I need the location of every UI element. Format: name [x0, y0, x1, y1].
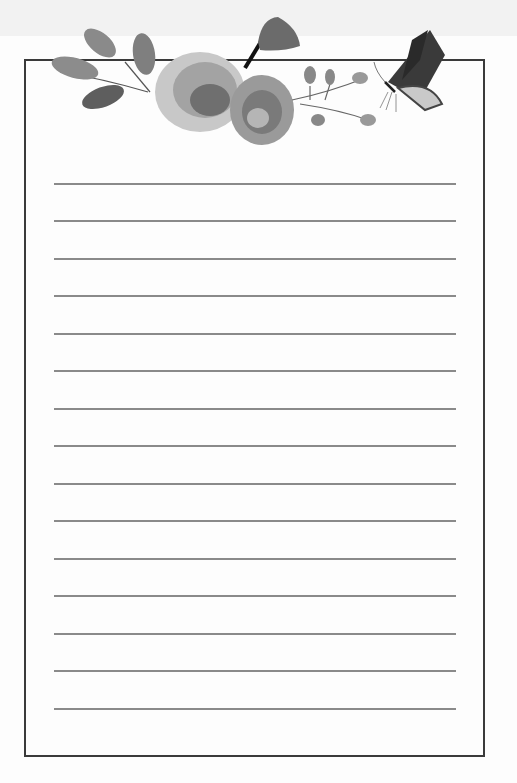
floral-decoration: [0, 0, 517, 160]
ruled-line: [54, 670, 456, 672]
ruled-line: [54, 483, 456, 485]
leaf-sprig-icon: [49, 23, 158, 114]
bell-flower-icon: [245, 17, 300, 68]
ruled-line: [54, 520, 456, 522]
ruled-line: [54, 258, 456, 260]
ruled-line: [54, 220, 456, 222]
rose-icon: [155, 52, 294, 145]
ruled-line: [54, 595, 456, 597]
ruled-line: [54, 408, 456, 410]
ruled-line: [54, 333, 456, 335]
ruled-line: [54, 370, 456, 372]
ruled-line: [54, 295, 456, 297]
ruled-line: [54, 445, 456, 447]
butterfly-icon: [374, 30, 445, 112]
ruled-line: [54, 558, 456, 560]
ruled-line: [54, 633, 456, 635]
ruled-line: [54, 708, 456, 710]
rosehip-berry-icon: [292, 66, 376, 126]
ruled-line: [54, 183, 456, 185]
